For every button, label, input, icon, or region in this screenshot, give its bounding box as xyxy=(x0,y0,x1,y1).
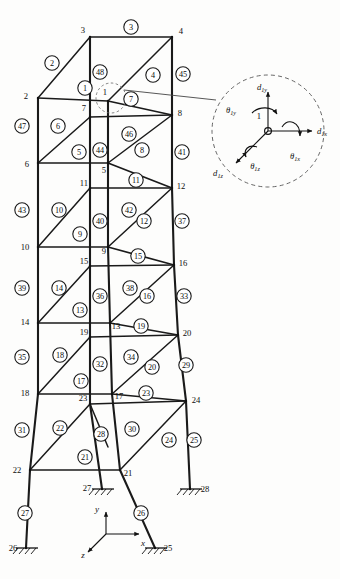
node-label: 7 xyxy=(82,103,87,113)
node-point xyxy=(101,488,103,490)
node-label: 14 xyxy=(21,317,30,327)
node-label: 13 xyxy=(112,321,121,331)
node-point xyxy=(171,187,173,189)
member-number-label: 43 xyxy=(18,206,26,215)
member-number-label: 39 xyxy=(18,284,26,293)
dof-label-d1y: d1y xyxy=(257,82,267,93)
member-line-31 xyxy=(30,394,38,470)
node-point xyxy=(25,547,27,549)
member-number-label: 31 xyxy=(18,426,26,435)
node-label: 27 xyxy=(83,483,92,493)
member-number-label: 8 xyxy=(140,146,144,155)
member-line-story1-back xyxy=(90,115,172,117)
node-point xyxy=(37,246,39,248)
member-number-label: 44 xyxy=(96,146,104,155)
node-label: 24 xyxy=(192,395,201,405)
member-number: 24 xyxy=(162,433,176,447)
node-label: 5 xyxy=(102,165,106,175)
member-number: 32 xyxy=(93,357,107,371)
member-number-label: 26 xyxy=(137,509,145,518)
member-number: 31 xyxy=(15,423,29,437)
member-number-label: 24 xyxy=(165,436,173,445)
member-number-label: 10 xyxy=(55,206,63,215)
member-line-front-center-5 xyxy=(112,394,120,470)
member-number: 3 xyxy=(124,20,138,34)
member-number: 42 xyxy=(122,203,136,217)
node-label: 10 xyxy=(21,242,30,252)
member-number: 34 xyxy=(124,350,138,364)
member-number: 23 xyxy=(139,386,153,400)
node-point xyxy=(189,488,191,490)
node-point xyxy=(37,393,39,395)
dof-label-d1z: d1z xyxy=(213,168,223,179)
member-number: 8 xyxy=(135,143,149,157)
node-label: 2 xyxy=(24,91,28,101)
member-number-label: 25 xyxy=(190,436,198,445)
member-number-label: 23 xyxy=(142,389,150,398)
member-number: 41 xyxy=(175,145,189,159)
member-number-label: 34 xyxy=(127,353,135,362)
dof-arc-t1x xyxy=(282,122,300,136)
member-number: 38 xyxy=(123,281,137,295)
node-label: 18 xyxy=(21,388,30,398)
node-label: 26 xyxy=(9,543,18,553)
node-point xyxy=(111,393,113,395)
member-number-label: 11 xyxy=(132,176,140,185)
node-point xyxy=(119,469,121,471)
member-number: 28 xyxy=(94,427,108,441)
member-number: 36 xyxy=(93,289,107,303)
member-number: 16 xyxy=(140,289,154,303)
member-number: 48 xyxy=(93,65,107,79)
node-label: 20 xyxy=(183,328,192,338)
member-number: 46 xyxy=(122,127,136,141)
node-point xyxy=(109,322,111,324)
member-number: 10 xyxy=(52,203,66,217)
node-label: 9 xyxy=(102,246,106,256)
node-label: 3 xyxy=(81,25,85,35)
node-point xyxy=(171,114,173,116)
member-number-label: 28 xyxy=(97,430,105,439)
node-label: 15 xyxy=(80,256,89,266)
member-number-label: 6 xyxy=(56,122,60,131)
dof-label-d1x: d1x xyxy=(317,126,327,137)
frame-canvas: y x z 1 d1y d1x d1z θ1y θ1x θ1z 12345678… xyxy=(0,0,340,579)
member-number: 30 xyxy=(125,422,139,436)
member-number: 6 xyxy=(51,119,65,133)
node-label: 1 xyxy=(103,87,107,97)
member-number-label: 13 xyxy=(76,306,84,315)
node-point xyxy=(89,265,91,267)
node-label: 8 xyxy=(178,108,182,118)
node-label: 25 xyxy=(164,543,173,553)
member-number: 40 xyxy=(93,214,107,228)
member-number-label: 17 xyxy=(77,377,85,386)
member-number: 4 xyxy=(146,68,160,82)
node-point xyxy=(89,403,91,405)
member-number: 26 xyxy=(134,506,148,520)
node-label: 23 xyxy=(79,393,88,403)
member-number: 19 xyxy=(134,319,148,333)
supports xyxy=(13,489,202,554)
node-point xyxy=(173,264,175,266)
member-number-label: 35 xyxy=(18,353,26,362)
member-number-label: 16 xyxy=(143,292,151,301)
member-number: 22 xyxy=(53,421,67,435)
member-number: 14 xyxy=(52,281,66,295)
node-point xyxy=(37,322,39,324)
node-point xyxy=(171,36,173,38)
member-line-story4-back xyxy=(90,335,178,337)
member-number-label: 42 xyxy=(125,206,133,215)
member-number-label: 12 xyxy=(140,217,148,226)
member-number-label: 15 xyxy=(134,252,142,261)
dof-label-t1x: θ1x xyxy=(290,151,300,162)
member-number: 29 xyxy=(179,358,193,372)
member-number-label: 2 xyxy=(50,59,54,68)
member-number: 45 xyxy=(176,67,190,81)
member-line-story3-back xyxy=(90,265,174,266)
member-number: 37 xyxy=(175,214,189,228)
member-line-37 xyxy=(172,188,174,265)
member-number-label: 27 xyxy=(21,509,29,518)
member-number-label: 32 xyxy=(96,360,104,369)
node-point xyxy=(89,336,91,338)
node-point xyxy=(107,246,109,248)
dof-arrow-d1z xyxy=(236,131,268,163)
